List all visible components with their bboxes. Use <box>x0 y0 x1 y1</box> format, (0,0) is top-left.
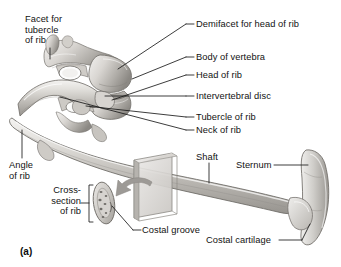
panel-identifier: (a) <box>20 246 32 257</box>
label-body-of-vertebra: Body of vertebra <box>196 52 265 63</box>
label-costal-cartilage: Costal cartilage <box>206 235 271 246</box>
label-costal-groove: Costal groove <box>142 225 200 236</box>
label-tubercle-of-rib: Tubercle of rib <box>196 112 256 123</box>
cross-section-bracket <box>89 185 93 222</box>
label-neck-of-rib: Neck of rib <box>196 125 241 136</box>
leader-costal-groove <box>112 206 133 230</box>
label-shaft: Shaft <box>196 152 218 163</box>
label-intervertebral-disc: Intervertebral disc <box>196 91 271 102</box>
sectioning-plane-group <box>134 153 177 221</box>
label-head-of-rib: Head of rib <box>196 70 242 81</box>
anatomical-figure: Facet for tubercle of rib Demifacet for … <box>0 0 341 267</box>
label-sternum: Sternum <box>236 160 272 171</box>
leader-body-of-vertebra <box>132 57 186 79</box>
sternum-group <box>301 150 329 245</box>
label-demifacet-for-head-of-rib: Demifacet for head of rib <box>196 19 299 30</box>
label-cross-section-of-rib: Cross- section of rib <box>42 185 81 217</box>
cross-section-shape <box>91 181 118 226</box>
label-angle-of-rib: Angle of rib <box>9 160 33 181</box>
label-facet-for-tubercle-of-rib: Facet for tubercle of rib <box>25 14 62 46</box>
leader-demifacet <box>118 24 186 69</box>
